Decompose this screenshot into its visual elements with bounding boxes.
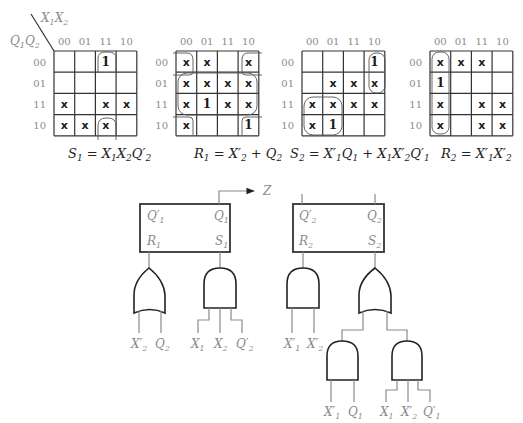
kmap-row-header: 11 <box>281 99 294 110</box>
kmap-cell-dontcare: x <box>245 56 252 69</box>
kmap-cell-dontcare: x <box>183 77 190 90</box>
kmap-cell-dontcare: x <box>102 119 109 132</box>
input-label: X1 <box>379 405 394 421</box>
wire-and4-in3 <box>418 380 430 402</box>
kmap-cell-dontcare: x <box>478 56 485 69</box>
kmap-col-header: 01 <box>455 36 468 47</box>
input-label: X′1 <box>323 405 340 421</box>
kmap-row-header: 00 <box>33 57 46 68</box>
or-gate-icon <box>134 268 165 313</box>
kmap-col-header: 00 <box>58 36 71 47</box>
kmap-cell-dontcare: x <box>102 98 109 111</box>
or-gate-s2 <box>342 252 407 341</box>
input-label: Q1 <box>348 405 363 421</box>
kmap-cell-dontcare: x <box>245 77 252 90</box>
input-label: Q2 <box>155 337 170 353</box>
kmap-row-header: 00 <box>281 57 294 68</box>
and-gate-icon <box>392 341 422 380</box>
kmap-cell-dontcare: x <box>437 56 444 69</box>
kmap-cell-dontcare: x <box>123 98 130 111</box>
kmap-cell-dontcare: x <box>437 98 444 111</box>
kmap-col-header: 00 <box>306 36 319 47</box>
kmap-cell-dontcare: x <box>309 119 316 132</box>
kmap-r1: 0001111000011110xxxxxxxx1xxx1 <box>155 36 259 136</box>
input-label: X′2 <box>130 337 147 353</box>
kmap-col-header: 10 <box>242 36 255 47</box>
input-label: X′2 <box>400 405 417 421</box>
kmap-loops <box>98 52 449 140</box>
kmap-col-header: 01 <box>201 36 214 47</box>
kmap-cell-one: 1 <box>102 55 110 69</box>
kmap-row-header: 11 <box>409 99 422 110</box>
kmap-cell-dontcare: x <box>478 119 485 132</box>
input-label: X2 <box>213 337 228 353</box>
equation-s1: S1 = X1X2Q′2 <box>68 146 151 163</box>
kmap-cell-dontcare: x <box>350 77 357 90</box>
kmap-col-var-label: X1X2 <box>40 11 68 27</box>
equation-r2: R2 = X′1X′2 <box>440 146 512 163</box>
or-gate-icon <box>359 268 391 313</box>
kmap-col-header: 10 <box>120 36 133 47</box>
kmap-cell-dontcare: x <box>371 98 378 111</box>
wire-or2-in2 <box>387 311 407 341</box>
kmap-grid: 0001111000011110xxx1xxxxxx <box>409 36 513 136</box>
kmap-cell-dontcare: x <box>478 98 485 111</box>
wire-and1-in3 <box>231 308 242 333</box>
flipflop-1: Q′1 Q1 R1 S1 Z <box>140 184 272 252</box>
kmap-row-header: 01 <box>33 78 46 89</box>
kmap-row-var-label: Q1Q2 <box>10 34 40 50</box>
kmap-cell-dontcare: x <box>329 77 336 90</box>
kmap-cell-dontcare: x <box>224 98 231 111</box>
kmap-cell-dontcare: x <box>61 98 68 111</box>
kmap-cell-one: 1 <box>203 97 211 111</box>
kmap-col-header: 11 <box>221 36 234 47</box>
kmap-col-header: 10 <box>496 36 509 47</box>
input-label: X1 <box>190 337 205 353</box>
kmap-row-header: 11 <box>33 99 46 110</box>
kmap-grid: 00011110000111101xxxxxx <box>33 36 137 136</box>
kmap-cell-dontcare: x <box>224 77 231 90</box>
equation-r1: R1 = X′2 + Q2 <box>193 146 283 163</box>
kmap-cell-dontcare: x <box>203 56 210 69</box>
kmap-col-header: 01 <box>79 36 92 47</box>
equation-s2: S2 = X′1Q1 + X1X′2Q′1 <box>290 146 430 163</box>
input-label: X′1 <box>283 337 300 353</box>
or-gate-r1: X′2 Q2 <box>130 252 170 353</box>
kmap-cell-dontcare: x <box>81 119 88 132</box>
output-z-label: Z <box>262 184 272 198</box>
kmap-col-header: 11 <box>347 36 360 47</box>
kmap-cell-dontcare: x <box>329 98 336 111</box>
kmap-col-header: 11 <box>99 36 112 47</box>
flipflop-2: Q′2 Q2 R2 S2 <box>293 194 384 252</box>
kmap-row-header: 01 <box>281 78 294 89</box>
kmap-row-header: 11 <box>155 99 168 110</box>
kmap-row-header: 10 <box>409 120 422 131</box>
and-gate-r2: X′1 X′2 <box>283 252 323 353</box>
kmap-row-header: 01 <box>155 78 168 89</box>
and-gate-icon <box>327 341 358 380</box>
kmap-grid: 0001111000011110xxxxxxxx1xxx1 <box>155 36 259 136</box>
kmap-row-header: 10 <box>33 120 46 131</box>
kmap-row-header: 10 <box>155 120 168 131</box>
wire-or2-in1 <box>342 311 363 341</box>
kmap-row-header: 10 <box>281 120 294 131</box>
wire-and1-in1 <box>198 308 209 333</box>
input-label: Q′2 <box>236 337 254 353</box>
wire-and4-in1 <box>386 380 397 402</box>
kmap-col-header: 00 <box>434 36 447 47</box>
and-gate-s2b: X1 X′2 Q′1 <box>379 341 441 421</box>
kmap-row-header: 00 <box>155 57 168 68</box>
kmap-cell-dontcare: x <box>183 98 190 111</box>
kmap-cell-dontcare: x <box>309 98 316 111</box>
kmap-cell-dontcare: x <box>457 56 464 69</box>
kmap-row-header: 01 <box>409 78 422 89</box>
kmap-cell-dontcare: x <box>183 119 190 132</box>
kmap-col-header: 10 <box>368 36 381 47</box>
kmap-cell-one: 1 <box>329 118 337 132</box>
kmap-cell-dontcare: x <box>437 119 444 132</box>
kmap-col-header: 00 <box>180 36 193 47</box>
and-gate-icon <box>204 268 236 308</box>
kmap-col-header: 01 <box>327 36 340 47</box>
kmap-cell-one: 1 <box>244 118 252 132</box>
diagram-canvas: X1X2 Q1Q2 00011110000111101xxxxxx 000111… <box>0 0 523 423</box>
